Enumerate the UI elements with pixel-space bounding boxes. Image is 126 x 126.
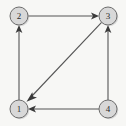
graph-figure: 2 3 1 4 <box>0 0 126 126</box>
node-1-circle[interactable] <box>10 100 28 118</box>
edge-3-to-1-line <box>32 22 102 96</box>
node-2[interactable]: 2 <box>10 7 29 26</box>
node-4-circle[interactable] <box>99 100 117 118</box>
node-3-circle[interactable] <box>99 7 117 25</box>
edge-3-to-1-arrowhead <box>27 92 38 102</box>
node-4[interactable]: 4 <box>99 100 118 119</box>
edge-3-to-1 <box>27 22 102 101</box>
node-1[interactable]: 1 <box>10 100 29 119</box>
node-2-circle[interactable] <box>10 7 28 25</box>
edge-4-to-1 <box>28 106 99 113</box>
edge-1-to-2 <box>16 25 23 100</box>
directed-graph-canvas: 2 3 1 4 <box>0 0 126 126</box>
edge-4-to-3 <box>105 25 112 100</box>
edge-2-to-3 <box>28 13 99 20</box>
node-3[interactable]: 3 <box>99 7 118 26</box>
